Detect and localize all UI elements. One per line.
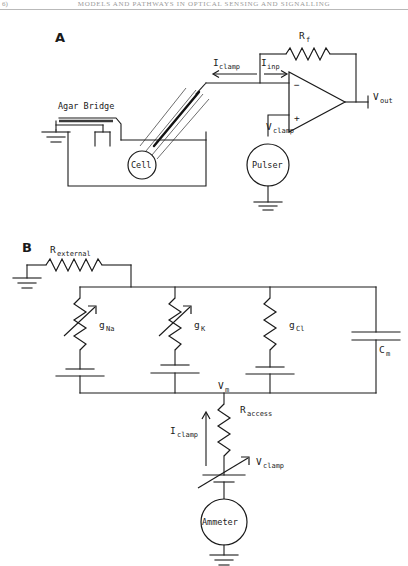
access-resistance-label: R [240,404,246,415]
access-resistor [218,393,230,475]
input-current-subscript: inp [267,63,280,71]
figure-body: A R f − + [0,10,408,566]
ammeter [201,499,247,565]
feedback-resistor-label: R [299,30,305,41]
membrane-capacitance-label: C [379,344,385,355]
sodium-conductance-subscript: Na [106,325,114,333]
ammeter-label: Ammeter [202,517,238,527]
cell-label: Cell [131,160,151,170]
panel-a: A R f − + [42,30,393,210]
clamp-voltage-subscript-b: clamp [263,462,284,470]
feedback-resistor-subscript: f [306,36,310,44]
clamp-current-subscript-a: clamp [219,63,240,71]
opamp-inverting-input-sign: − [294,79,300,90]
potassium-conductance-subscript: K [201,325,206,333]
external-resistor [13,259,131,288]
external-resistance-subscript: external [57,250,91,258]
clamp-current-label-a: I [213,57,219,68]
clamp-current-arrow-b [202,412,210,466]
output-voltage-label: V [373,91,379,102]
sodium-conductance-label: g [99,319,105,330]
chloride-conductance-label: g [289,319,295,330]
clamp-voltage-label-a: V [266,121,272,132]
sodium-conductance-branch [56,287,104,393]
chloride-conductance-subscript: Cl [296,325,304,333]
potassium-conductance-label: g [194,319,200,330]
figure-page: 6) MODELS AND PATHWAYS IN OPTICAL SENSIN… [0,0,408,566]
membrane-voltage-subscript: m [225,386,229,394]
potassium-conductance-branch [151,287,199,393]
access-resistance-subscript: access [247,410,272,418]
pulser-source [247,144,289,210]
running-head: MODELS AND PATHWAYS IN OPTICAL SENSING A… [0,0,408,9]
external-resistance-label: R [50,244,56,255]
chloride-conductance-branch [246,287,294,393]
clamp-voltage-label-b: V [256,456,262,467]
patch-pipette [140,83,209,159]
panel-b-letter: B [22,240,32,255]
membrane-voltage-label: V [218,380,224,391]
pulser-label: Pulser [252,160,283,170]
agar-bridge-label: Agar Bridge [58,101,114,111]
clamp-current-subscript-b: clamp [177,431,198,439]
membrane-capacitor [352,287,400,393]
membrane-capacitance-subscript: m [386,350,390,358]
opamp-noninverting-input-sign: + [294,112,300,123]
input-current-arrow [264,71,287,78]
agar-bridge [42,118,206,146]
clamp-voltage-subscript-a: clamp [273,127,294,135]
panel-b: B R external [13,240,400,565]
panel-a-letter: A [55,30,65,45]
clamp-current-label-b: I [170,425,176,436]
input-current-label: I [261,57,267,68]
clamp-current-arrow-a [213,71,257,78]
output-voltage-subscript: out [380,97,393,105]
operational-amplifier: − + [289,72,345,132]
